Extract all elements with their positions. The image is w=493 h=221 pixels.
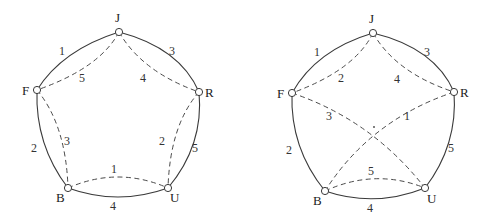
vertex-j [115, 28, 122, 35]
vertex-f [33, 86, 40, 93]
edge-f-u-dashed [292, 93, 425, 188]
graph-figure: 1325454321JFRBU1325424315JFRBU [0, 0, 493, 221]
vertex-label-f: F [277, 86, 284, 101]
edge-label: 4 [394, 72, 400, 86]
edge-j-f-dashed [37, 32, 119, 90]
edge-f-b-solid [292, 93, 325, 191]
vertex-b [64, 184, 71, 191]
edge-label: 3 [326, 109, 332, 123]
vertex-label-r: R [205, 85, 214, 100]
edge-label: 5 [448, 141, 454, 155]
edge-label: 3 [169, 44, 175, 58]
edge-label: 4 [110, 199, 116, 213]
vertex-label-j: J [369, 11, 374, 26]
vertex-label-u: U [427, 191, 437, 206]
edge-label: 5 [368, 164, 374, 178]
edge-label: 2 [286, 143, 292, 157]
edge-label: 4 [140, 71, 146, 85]
edge-label: 1 [404, 109, 410, 123]
edge-r-u-solid [168, 92, 200, 188]
edge-r-u-solid [425, 92, 454, 188]
edge-b-u-dashed [68, 177, 168, 188]
vertex-f [288, 89, 295, 96]
vertex-label-b: B [313, 193, 322, 208]
edge-label: 2 [159, 134, 165, 148]
vertex-r [450, 88, 457, 95]
figure-canvas: 1325454321JFRBU1325424315JFRBU [0, 0, 493, 221]
graph-left: 1325454321JFRBU [22, 10, 214, 213]
crossing-point [373, 126, 375, 128]
edge-label: 1 [111, 162, 117, 176]
graph-right: 1325424315JFRBU [277, 11, 469, 215]
edge-label: 4 [367, 201, 373, 215]
vertex-j [369, 29, 376, 36]
vertex-label-j: J [115, 10, 120, 25]
vertex-label-f: F [22, 83, 29, 98]
vertex-label-u: U [170, 190, 180, 205]
edge-j-r-dashed [373, 33, 454, 92]
edge-j-r-dashed [119, 32, 199, 92]
edge-label: 5 [79, 71, 85, 85]
edge-label: 1 [59, 44, 65, 58]
edge-b-u-dashed [325, 179, 425, 191]
vertex-b [321, 187, 328, 194]
edge-label: 5 [192, 141, 198, 155]
edge-j-r-solid [373, 33, 454, 92]
edge-j-f-dashed [292, 33, 373, 93]
edge-j-f-solid [292, 33, 373, 93]
edge-label: 3 [64, 134, 70, 148]
edge-r-b-dashed [325, 92, 454, 191]
edge-j-r-solid [119, 32, 199, 92]
edge-label: 3 [424, 45, 430, 59]
edge-b-u-solid [68, 188, 168, 197]
edge-b-u-solid [325, 188, 425, 199]
edge-j-f-solid [37, 32, 119, 90]
vertex-r [195, 88, 202, 95]
edge-label: 1 [314, 45, 320, 59]
vertex-label-r: R [460, 85, 469, 100]
edge-label: 2 [31, 141, 37, 155]
vertex-label-b: B [56, 190, 65, 205]
edge-label: 2 [338, 71, 344, 85]
